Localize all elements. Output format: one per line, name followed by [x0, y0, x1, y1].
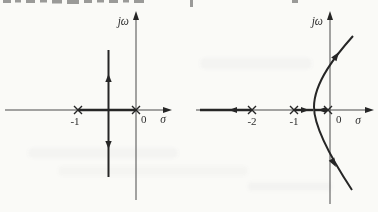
right-tick-label-minus1: -1	[289, 115, 298, 127]
right-tick-label-minus2: -2	[247, 115, 256, 127]
left-origin-label: 0	[141, 113, 147, 125]
right-sigma-axis-label: σ	[355, 114, 362, 126]
cropped-text-fragments	[3, 0, 298, 7]
scanned-figure-page: jω σ -1 0 jω σ	[0, 0, 378, 212]
right-jw-axis-arrow-icon	[327, 11, 333, 20]
figure-canvas: jω σ -1 0 jω σ	[0, 0, 378, 212]
right-real-axis-inward-arrow-icon	[318, 107, 326, 113]
left-jw-axis-arrow-icon	[133, 11, 139, 20]
right-jw-axis-label: jω	[310, 15, 323, 28]
left-branch-up-arrow-icon	[105, 74, 111, 82]
right-sigma-axis-arrow-icon	[365, 107, 374, 113]
left-branch-down-arrow-icon	[105, 141, 111, 149]
right-origin-label: 0	[336, 113, 342, 125]
left-jw-axis-label: jω	[116, 15, 129, 28]
right-real-axis-left-arrow-icon	[229, 107, 237, 113]
left-tick-label-minus1: -1	[70, 115, 79, 127]
left-sigma-axis-label: σ	[160, 113, 167, 125]
right-real-axis-right-arrow-icon	[301, 107, 309, 113]
